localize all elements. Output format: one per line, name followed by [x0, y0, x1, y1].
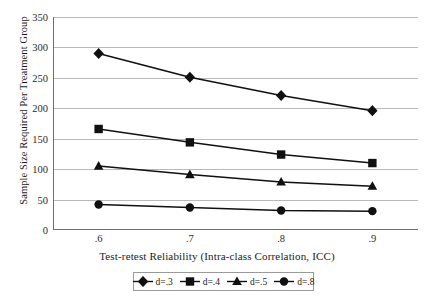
diamond-marker-icon: [133, 276, 153, 287]
series-line: [99, 129, 373, 163]
legend-entry-d5[interactable]: d=.5: [227, 276, 267, 287]
x-tick-label-.7: .7: [170, 233, 210, 245]
triangle-marker-icon: [227, 276, 247, 287]
y-axis-title: Sample Size Required Per Treatment Group: [18, 11, 29, 211]
plot-area: [53, 17, 418, 230]
square-marker-icon: [180, 276, 200, 287]
legend-entry-d4[interactable]: d=.4: [180, 276, 220, 287]
series-line: [99, 166, 373, 186]
data-point-d3-.9: [367, 105, 377, 116]
circle-marker-icon: [274, 276, 294, 287]
data-point-d4-.9: [368, 159, 376, 167]
legend-label: d=.5: [250, 277, 267, 287]
data-point-d8-.7: [186, 203, 194, 211]
x-tick-label-.9: .9: [352, 233, 392, 245]
series-d5: [94, 161, 377, 190]
data-point-d4-.8: [277, 150, 285, 158]
caption-sliver: [0, 297, 434, 307]
series-layer: [53, 17, 418, 230]
x-axis-title: Test-retest Reliability (Intra-class Cor…: [0, 250, 434, 262]
data-point-d3-.6: [93, 48, 103, 59]
series-d3: [93, 48, 377, 116]
data-point-d4-.6: [94, 125, 102, 133]
x-tick-label-.8: .8: [261, 233, 301, 245]
series-line: [99, 54, 373, 111]
series-d8: [94, 200, 376, 215]
figure-container: 050100150200250300350 .6.7.8.9 Sample Si…: [0, 0, 434, 307]
data-point-d8-.9: [368, 207, 376, 215]
legend-entry-d3[interactable]: d=.3: [133, 276, 173, 287]
series-line: [99, 204, 373, 211]
legend-label: d=.3: [156, 277, 173, 287]
data-point-d5-.6: [94, 161, 104, 170]
legend-label: d=.4: [203, 277, 220, 287]
data-point-d3-.7: [185, 72, 195, 83]
chart-legend: d=.3d=.4d=.5d=.8: [133, 272, 314, 291]
y-tick-label-0: 0: [4, 225, 48, 236]
series-d4: [94, 125, 376, 167]
data-point-d8-.8: [277, 206, 285, 214]
legend-label: d=.8: [297, 277, 314, 287]
data-point-d8-.6: [94, 200, 102, 208]
legend-entry-d8[interactable]: d=.8: [274, 276, 314, 287]
x-axis-tick-labels: .6.7.8.9: [53, 233, 418, 249]
data-point-d4-.7: [186, 138, 194, 146]
data-point-d3-.8: [276, 90, 286, 101]
x-tick-label-.6: .6: [79, 233, 119, 245]
